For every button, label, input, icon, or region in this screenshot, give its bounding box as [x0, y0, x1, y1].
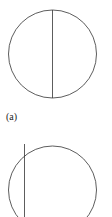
circle-b [9, 146, 97, 217]
figure-b [9, 144, 97, 217]
figure-a-label: (a) [6, 111, 17, 122]
diagram-canvas [0, 0, 112, 217]
figure-a [9, 10, 97, 98]
